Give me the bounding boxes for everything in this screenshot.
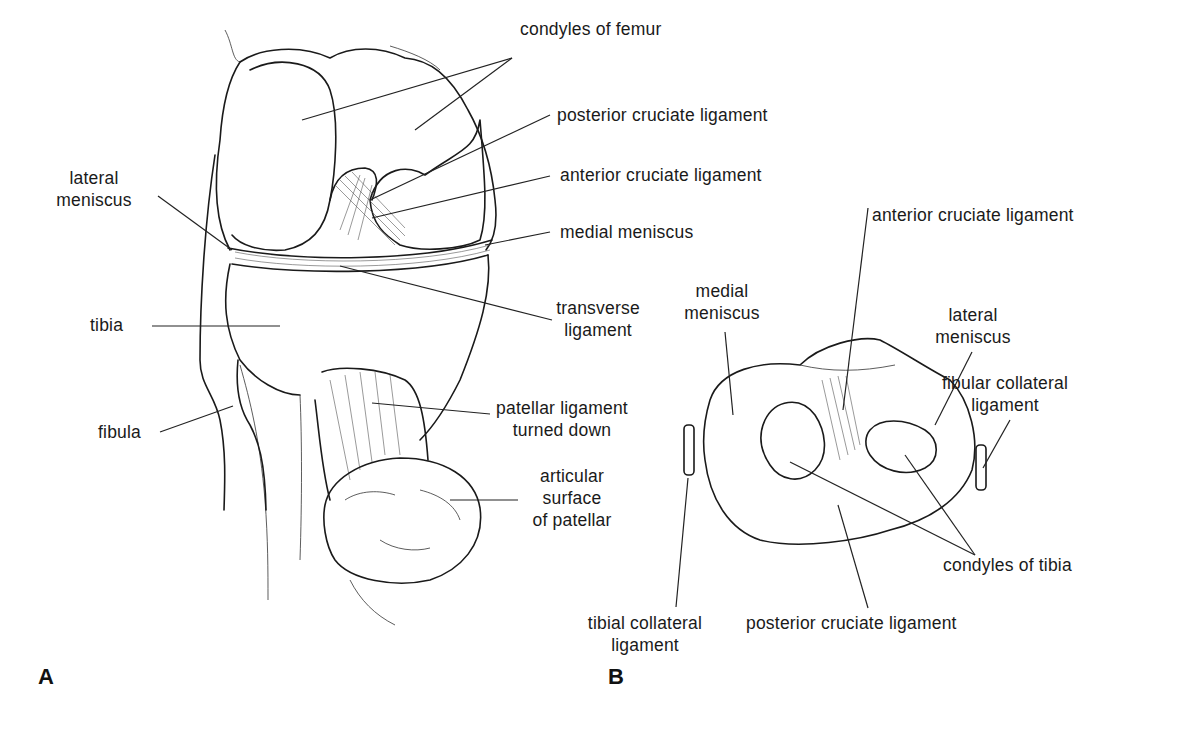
- label-line: articular: [522, 465, 622, 487]
- medial-condyle-b: [761, 402, 825, 479]
- label-fibular-collateral-ligament: fibular collateral ligament: [930, 372, 1080, 416]
- label-anterior-cruciate-ligament-b: anterior cruciate ligament: [872, 204, 1074, 226]
- label-line: ligament: [575, 634, 715, 656]
- patellar-ligament: [322, 368, 428, 460]
- panel-a-drawing: [152, 30, 552, 625]
- label-line: turned down: [492, 419, 632, 441]
- knee-anatomy-figure: condyles of femur posterior cruciate lig…: [0, 0, 1182, 733]
- label-condyles-of-tibia: condyles of tibia: [943, 554, 1072, 576]
- label-lateral-meniscus-a: lateral meniscus: [54, 167, 134, 211]
- lateral-femoral-condyle: [232, 62, 336, 250]
- leader-medial-meniscus-b: [725, 332, 733, 415]
- leader-posterior-cruciate-a: [370, 115, 550, 200]
- label-line: lateral: [54, 167, 134, 189]
- panel-letter-b: B: [608, 664, 624, 690]
- medial-femoral-condyle: [370, 120, 485, 249]
- label-line: lateral: [923, 304, 1023, 326]
- leader-tibial-collateral: [676, 478, 688, 607]
- femur-left-edge: [216, 62, 240, 250]
- tibial-collateral-ligament-shape: [684, 425, 694, 475]
- meniscus-band: [228, 240, 492, 258]
- label-posterior-cruciate-ligament-b: posterior cruciate ligament: [746, 612, 957, 634]
- leader-posterior-cruciate-b: [838, 505, 868, 608]
- leader-medial-meniscus: [485, 232, 550, 245]
- label-tibia: tibia: [90, 314, 123, 336]
- label-patellar-ligament-turned-down: patellar ligament turned down: [492, 397, 632, 441]
- lateral-condyle-b: [866, 421, 936, 472]
- label-transverse-ligament: transverse ligament: [548, 297, 648, 341]
- label-line: patellar ligament: [492, 397, 632, 419]
- label-anterior-cruciate-ligament-a: anterior cruciate ligament: [560, 164, 762, 186]
- label-lateral-meniscus-b: lateral meniscus: [923, 304, 1023, 348]
- label-line: tibial collateral: [575, 612, 715, 634]
- label-fibula: fibula: [98, 421, 141, 443]
- panel-letter-a: A: [38, 664, 54, 690]
- leader-anterior-cruciate-a: [372, 176, 550, 218]
- patella: [324, 458, 481, 583]
- fibula-outline: [200, 155, 225, 510]
- leader-fibular-collateral: [983, 420, 1010, 468]
- label-line: ligament: [930, 394, 1080, 416]
- label-line: transverse: [548, 297, 648, 319]
- label-medial-meniscus: medial meniscus: [560, 221, 693, 243]
- label-line: fibular collateral: [930, 372, 1080, 394]
- label-medial-meniscus-b: medial meniscus: [672, 280, 772, 324]
- label-posterior-cruciate-ligament-a: posterior cruciate ligament: [557, 104, 768, 126]
- label-articular-surface-of-patellar: articular surface of patellar: [522, 465, 622, 531]
- leader-condyles-tibia-1: [790, 462, 975, 555]
- leader-transverse-ligament: [340, 266, 552, 320]
- label-line: meniscus: [923, 326, 1023, 348]
- label-line: medial: [672, 280, 772, 302]
- leader-anterior-cruciate-b: [843, 208, 868, 410]
- leader-condyles-femur-2: [415, 58, 512, 130]
- label-line: surface: [522, 487, 622, 509]
- leader-condyles-femur-1: [302, 58, 512, 120]
- label-line: of patellar: [522, 509, 622, 531]
- leader-patellar-ligament: [372, 403, 490, 414]
- label-line: meniscus: [672, 302, 772, 324]
- fibular-collateral-ligament-shape: [976, 445, 986, 490]
- label-line: meniscus: [54, 189, 134, 211]
- label-tibial-collateral-ligament: tibial collateral ligament: [575, 612, 715, 656]
- label-line: ligament: [548, 319, 648, 341]
- femur-outline: [240, 49, 496, 250]
- label-condyles-of-femur: condyles of femur: [520, 18, 662, 40]
- leader-condyles-tibia-2: [905, 455, 975, 555]
